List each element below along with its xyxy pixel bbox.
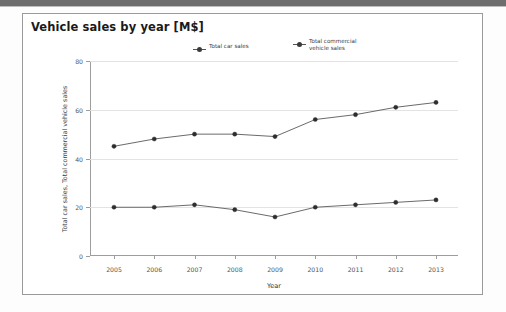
- y-axis-title-text: Total car sales, Total commercial vehicl…: [61, 85, 69, 232]
- data-point[interactable]: [313, 205, 317, 209]
- data-point[interactable]: [112, 144, 116, 148]
- x-tick-label-2009: 2009: [267, 266, 283, 273]
- data-point[interactable]: [233, 208, 237, 212]
- x-tick-2005: [114, 256, 115, 259]
- x-axis-title: Year: [90, 282, 458, 290]
- x-tick-2012: [396, 256, 397, 259]
- data-point[interactable]: [273, 215, 277, 219]
- series-line-0: [114, 102, 436, 146]
- x-tick-label-2005: 2005: [106, 266, 122, 273]
- data-point[interactable]: [192, 203, 196, 207]
- legend-label-total-car-sales: Total car sales: [209, 43, 249, 50]
- data-point[interactable]: [313, 117, 317, 121]
- y-tick-label-80: 80: [75, 58, 83, 65]
- y-tick-label-0: 0: [79, 253, 83, 260]
- x-tick-label-2012: 2012: [388, 266, 404, 273]
- x-tick-2013: [436, 256, 437, 259]
- legend-item-total-car-sales[interactable]: Total car sales: [193, 43, 249, 54]
- chart-panel: Vehicle sales by year [M$] Total car sal…: [22, 13, 483, 295]
- y-tick-label-20: 20: [75, 204, 83, 211]
- x-tick-2007: [195, 256, 196, 259]
- y-tick-label-60: 60: [75, 106, 83, 113]
- data-point[interactable]: [273, 134, 277, 138]
- legend-item-total-commercial-vehicle-sales[interactable]: Total commercial vehicle sales: [293, 38, 356, 53]
- titlebar-divider: [0, 6, 506, 7]
- data-point[interactable]: [434, 100, 438, 104]
- x-tick-label-2013: 2013: [428, 266, 444, 273]
- data-point[interactable]: [192, 132, 196, 136]
- data-point[interactable]: [233, 132, 237, 136]
- x-tick-label-2008: 2008: [227, 266, 243, 273]
- y-tick-0: [86, 256, 90, 257]
- x-tick-label-2007: 2007: [187, 266, 203, 273]
- data-point[interactable]: [394, 105, 398, 109]
- x-tick-2006: [154, 256, 155, 259]
- chart-title: Vehicle sales by year [M$]: [31, 20, 204, 34]
- x-tick-2008: [235, 256, 236, 259]
- data-point[interactable]: [394, 200, 398, 204]
- data-point[interactable]: [434, 198, 438, 202]
- x-tick-label-2010: 2010: [307, 266, 323, 273]
- y-tick-label-40: 40: [75, 155, 83, 162]
- data-point[interactable]: [152, 205, 156, 209]
- screenshot-root: Vehicle sales by year [M$] Total car sal…: [0, 0, 506, 312]
- x-tick-label-2011: 2011: [348, 266, 364, 273]
- series-line-1: [114, 200, 436, 217]
- data-point[interactable]: [353, 203, 357, 207]
- x-tick-2010: [315, 256, 316, 259]
- data-point[interactable]: [112, 205, 116, 209]
- x-tick-2011: [356, 256, 357, 259]
- y-axis-title: Total car sales, Total commercial vehicl…: [59, 61, 71, 256]
- legend-marker-icon: [293, 40, 306, 49]
- legend-marker-icon: [193, 45, 206, 54]
- data-point[interactable]: [353, 113, 357, 117]
- plot-area: 020406080 200520062007200820092010201120…: [90, 61, 458, 256]
- x-tick-label-2006: 2006: [146, 266, 162, 273]
- series-layer: [90, 61, 458, 256]
- x-tick-2009: [275, 256, 276, 259]
- legend-label-total-commercial-vehicle-sales: Total commercial vehicle sales: [309, 38, 356, 53]
- data-point[interactable]: [152, 137, 156, 141]
